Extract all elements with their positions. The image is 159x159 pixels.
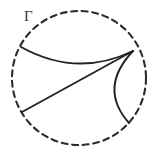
right-arc-curve [114, 51, 133, 123]
boundary-label-gamma: Γ [24, 9, 33, 24]
boundary-circle-gamma [12, 11, 146, 145]
hyperbolic-disk-figure: Γ [0, 0, 159, 159]
